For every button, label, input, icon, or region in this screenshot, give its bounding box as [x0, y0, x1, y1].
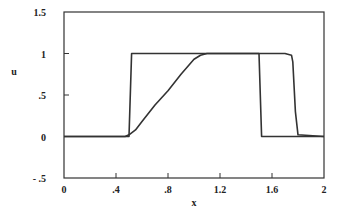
series-line-1 [64, 54, 324, 137]
x-tick-label: 1.2 [214, 184, 227, 195]
x-tick-label: 2 [322, 184, 327, 195]
series-line-0 [64, 54, 324, 137]
x-tick-label: 1.6 [266, 184, 279, 195]
y-tick-label: 0 [41, 132, 46, 143]
x-tick-label: .8 [164, 184, 172, 195]
plot-frame [64, 12, 324, 178]
x-tick-label: .4 [112, 184, 120, 195]
x-axis-label: x [192, 197, 197, 208]
data-series [64, 54, 324, 137]
y-tick-label: - .5 [33, 173, 46, 184]
chart: 0.4.81.21.621.51.50- .5xu [0, 0, 337, 211]
y-axis-label: u [11, 66, 17, 77]
y-tick-label: .5 [39, 90, 47, 101]
y-tick-label: 1.5 [34, 7, 47, 18]
y-tick-label: 1 [41, 49, 46, 60]
x-tick-label: 0 [62, 184, 67, 195]
axis-ticks [64, 54, 272, 179]
